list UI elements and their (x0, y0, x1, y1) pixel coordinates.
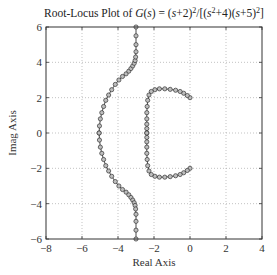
locus-marker (147, 93, 151, 97)
y-tick-label: 2 (37, 92, 43, 104)
locus-marker (178, 172, 182, 176)
locus-marker (145, 111, 149, 115)
locus-marker (145, 122, 149, 126)
locus-marker (163, 87, 167, 91)
locus-marker (174, 174, 178, 178)
locus-marker (145, 151, 149, 155)
svg-text:Root-Locus Plot of G(s) = (s+2: Root-Locus Plot of G(s) = (s+2)2/[(s2+4)… (44, 6, 264, 21)
locus-marker (134, 34, 138, 38)
y-tick-label: −4 (30, 198, 42, 210)
locus-marker (102, 104, 106, 108)
locus-marker (145, 140, 149, 144)
locus-marker (134, 219, 138, 223)
y-tick-label: −2 (30, 162, 42, 174)
locus-marker (134, 228, 138, 232)
locus-marker (146, 164, 150, 168)
x-tick-label: −2 (148, 242, 160, 254)
locus-marker (102, 157, 106, 161)
locus-marker (97, 131, 101, 135)
locus-marker (157, 87, 161, 91)
locus-marker (168, 175, 172, 179)
locus-branches (97, 25, 192, 241)
locus-marker (107, 169, 111, 173)
locus-marker (134, 50, 138, 54)
locus-marker (113, 82, 117, 86)
locus-marker (97, 138, 101, 142)
y-tick-label: 6 (37, 21, 43, 33)
locus-marker (134, 55, 138, 59)
locus-marker (100, 151, 104, 155)
root-locus-chart: Root-Locus Plot of G(s) = (s+2)2/[(s2+4)… (0, 0, 277, 275)
locus-marker (134, 207, 138, 211)
x-tick-label: 0 (187, 242, 193, 254)
locus-marker (145, 135, 149, 139)
locus-marker (145, 157, 149, 161)
locus-marker (168, 87, 172, 91)
locus-marker (104, 164, 108, 168)
chart-title: Root-Locus Plot of G(s) = (s+2)2/[(s2+4)… (44, 6, 264, 21)
locus-marker (174, 88, 178, 92)
locus-marker (113, 179, 117, 183)
locus-marker (104, 98, 108, 102)
y-axis-label: Imag Axis (6, 110, 18, 156)
y-tick-label: 4 (37, 56, 43, 68)
locus-marker (163, 175, 167, 179)
x-tick-label: −4 (112, 242, 124, 254)
locus-marker (145, 117, 149, 121)
locus-marker (110, 88, 114, 92)
locus-marker (98, 117, 102, 121)
locus-marker (147, 169, 151, 173)
locus-marker (134, 43, 138, 47)
x-tick-label: 2 (223, 242, 229, 254)
locus-marker (100, 111, 104, 115)
locus-marker (145, 131, 149, 135)
locus-marker (117, 184, 121, 188)
locus-marker (134, 212, 138, 216)
y-tick-label: 0 (37, 127, 43, 139)
x-axis-label: Real Axis (132, 256, 175, 268)
locus-marker (117, 78, 121, 82)
locus-marker (97, 124, 101, 128)
locus-marker (145, 145, 149, 149)
x-tick-label: −6 (76, 242, 88, 254)
locus-marker (145, 104, 149, 108)
locus-marker (107, 93, 111, 97)
grid-lines (46, 27, 262, 239)
locus-marker (98, 145, 102, 149)
locus-marker (157, 175, 161, 179)
locus-marker (178, 89, 182, 93)
x-tick-label: 4 (259, 242, 265, 254)
locus-marker (146, 98, 150, 102)
y-tick-label: −6 (30, 233, 42, 245)
locus-marker (145, 126, 149, 130)
locus-marker (110, 174, 114, 178)
